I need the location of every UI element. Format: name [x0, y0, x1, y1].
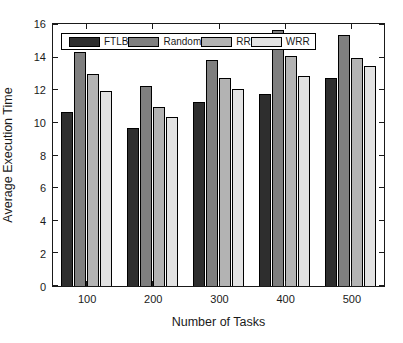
x-tick-label: 300: [200, 292, 240, 306]
y-tick-mark: [379, 252, 384, 253]
bar-wrr-200: [166, 117, 178, 286]
bar-random-300: [206, 60, 218, 286]
bar-wrr-300: [232, 89, 244, 286]
bar-random-400: [272, 30, 284, 286]
y-axis-label: Average Execution Time: [0, 23, 16, 287]
y-tick-mark: [53, 122, 58, 123]
bar-chart-figure: Average Execution Time FTLBRandomRRWRR 0…: [0, 0, 403, 343]
y-tick-mark: [53, 155, 58, 156]
legend-swatch-random: [128, 37, 159, 47]
y-tick-label: 16: [18, 17, 46, 31]
y-tick-mark: [379, 57, 384, 58]
x-tick-label: 500: [332, 292, 372, 306]
y-tick-mark: [379, 187, 384, 188]
y-tick-mark: [53, 57, 58, 58]
y-tick-label: 14: [18, 50, 46, 64]
x-tick-mark: [152, 281, 153, 286]
x-tick-label: 400: [266, 292, 306, 306]
y-tick-label: 10: [18, 116, 46, 130]
legend-entry-ftlb: FTLB: [69, 34, 128, 49]
bar-rr-500: [351, 58, 363, 286]
x-tick-mark: [219, 24, 220, 29]
legend-entry-wrr: WRR: [251, 34, 310, 49]
y-tick-label: 4: [18, 214, 46, 228]
legend-entry-rr: RR: [201, 34, 250, 49]
x-tick-mark: [351, 24, 352, 29]
y-tick-mark: [379, 155, 384, 156]
legend-swatch-rr: [201, 37, 232, 47]
bar-wrr-400: [298, 76, 310, 286]
x-tick-label: 200: [133, 292, 173, 306]
legend-swatch-wrr: [251, 37, 282, 47]
y-tick-label: 0: [18, 280, 46, 294]
bar-random-200: [140, 86, 152, 286]
legend-label-ftlb: FTLB: [104, 34, 128, 49]
bar-ftlb-200: [127, 128, 139, 286]
y-tick-label: 12: [18, 83, 46, 97]
y-tick-mark: [379, 285, 384, 286]
legend: FTLBRandomRRWRR: [61, 33, 316, 50]
legend-label-random: Random: [163, 34, 201, 49]
y-tick-mark: [53, 252, 58, 253]
x-tick-mark: [351, 281, 352, 286]
bar-random-500: [338, 35, 350, 286]
bar-rr-400: [285, 56, 297, 286]
y-tick-label: 8: [18, 149, 46, 163]
bar-random-100: [74, 52, 86, 286]
y-tick-label: 2: [18, 247, 46, 261]
x-tick-mark: [152, 24, 153, 29]
y-tick-mark: [53, 285, 58, 286]
plot-area: FTLBRandomRRWRR: [52, 23, 385, 287]
bar-wrr-100: [100, 91, 112, 286]
y-tick-label: 6: [18, 181, 46, 195]
y-tick-mark: [379, 220, 384, 221]
legend-label-wrr: WRR: [286, 34, 310, 49]
bar-ftlb-400: [259, 94, 271, 286]
x-tick-label: 100: [67, 292, 107, 306]
y-tick-mark: [379, 89, 384, 90]
x-tick-mark: [219, 281, 220, 286]
legend-label-rr: RR: [236, 34, 250, 49]
x-tick-mark: [86, 24, 87, 29]
bar-rr-100: [87, 74, 99, 286]
x-tick-mark: [285, 281, 286, 286]
y-tick-mark: [53, 89, 58, 90]
bar-rr-200: [153, 107, 165, 286]
bar-ftlb-500: [325, 78, 337, 286]
bar-rr-300: [219, 78, 231, 286]
bar-wrr-500: [364, 66, 376, 286]
legend-entry-random: Random: [128, 34, 201, 49]
x-tick-mark: [86, 281, 87, 286]
y-tick-mark: [53, 187, 58, 188]
y-tick-mark: [53, 24, 58, 25]
y-tick-mark: [379, 122, 384, 123]
y-axis-label-text: Average Execution Time: [1, 87, 15, 222]
bar-ftlb-100: [61, 112, 73, 286]
x-tick-mark: [285, 24, 286, 29]
bar-ftlb-300: [193, 102, 205, 286]
legend-swatch-ftlb: [69, 37, 100, 47]
y-tick-mark: [53, 220, 58, 221]
y-tick-mark: [379, 24, 384, 25]
x-axis-label: Number of Tasks: [52, 315, 385, 329]
